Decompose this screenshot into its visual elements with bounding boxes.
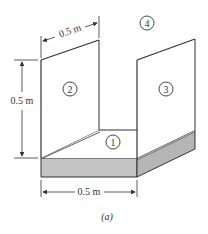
surface-label-4: 4 [140, 16, 154, 30]
surface-label-2: 2 [63, 82, 77, 96]
surface-label-3: 3 [159, 82, 173, 96]
top-dimension-label: 0.5 m [57, 22, 82, 40]
bottom-dimension-label: 0.5 m [78, 186, 101, 197]
svg-text:2: 2 [68, 84, 73, 95]
surface-label-1: 1 [106, 135, 120, 149]
base-slab-front [41, 158, 137, 177]
svg-text:3: 3 [164, 84, 169, 95]
left-dimension-label: 0.5 m [11, 95, 34, 106]
left-dimension: 0.5 m [11, 60, 38, 158]
svg-text:1: 1 [111, 137, 116, 148]
figure-caption: (a) [101, 211, 113, 223]
bottom-dimension: 0.5 m [41, 180, 137, 197]
enclosure-diagram: 0.5 m 0.5 m 0.5 m 1 2 3 [0, 0, 208, 234]
svg-text:4: 4 [145, 18, 150, 29]
